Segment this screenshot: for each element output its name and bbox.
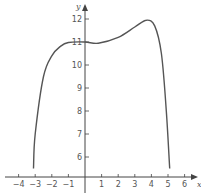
x-axis-label: x <box>197 180 201 189</box>
y-tick-label: 9 <box>77 84 82 93</box>
x-tick-label: −1 <box>63 180 75 189</box>
x-tick-label: 6 <box>182 180 187 189</box>
x-tick-label: −4 <box>13 180 25 189</box>
x-tick-label: 3 <box>132 180 137 189</box>
y-tick-label: 8 <box>77 107 82 116</box>
x-tick-label: 4 <box>149 180 154 189</box>
y-tick-label: 6 <box>77 153 82 162</box>
x-tick-label: −2 <box>46 180 58 189</box>
y-tick-label: 12 <box>72 15 82 24</box>
y-tick-label: 10 <box>72 61 82 70</box>
y-axis-arrow-icon <box>82 4 88 11</box>
y-axis-label: y <box>75 2 81 11</box>
x-tick-label: 1 <box>99 180 104 189</box>
y-tick-label: 7 <box>77 130 82 139</box>
function-curve <box>34 20 170 168</box>
x-tick-label: −3 <box>29 180 41 189</box>
x-tick-label: 2 <box>116 180 121 189</box>
x-tick-label: 5 <box>165 180 170 189</box>
function-graph: −4−3−2−11234566789101112 x y <box>0 0 201 193</box>
